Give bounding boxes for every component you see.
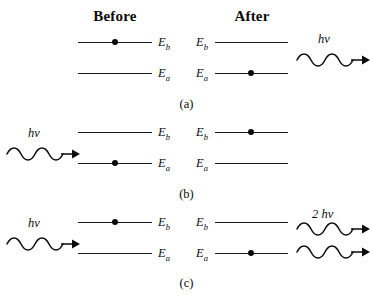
electron-dot xyxy=(248,129,254,135)
before-level-line-lower xyxy=(78,253,152,254)
level-symbol: E xyxy=(158,35,166,49)
photon-label-2h: 2 h xyxy=(312,207,328,221)
arrow-head-icon-second xyxy=(362,248,370,257)
arrow-head-icon xyxy=(362,56,370,65)
level-subscript: b xyxy=(166,42,170,52)
electron-dot xyxy=(112,160,118,166)
wave-path xyxy=(297,54,353,66)
column-header-before: Before xyxy=(78,8,152,25)
photon-incident xyxy=(6,140,80,166)
before-label-upper: Eb xyxy=(158,36,170,51)
photon-label-nu: ν xyxy=(34,126,40,140)
level-symbol: E xyxy=(196,156,204,170)
before-level-line-lower xyxy=(78,73,152,74)
level-symbol: E xyxy=(158,156,166,170)
level-symbol: E xyxy=(196,125,204,139)
arrow-head-icon xyxy=(72,150,80,159)
before-label-upper: Eb xyxy=(158,216,170,231)
photon-label-nu: ν xyxy=(328,207,334,221)
level-subscript: b xyxy=(204,42,208,52)
level-symbol: E xyxy=(196,66,204,80)
caption-c: (c) xyxy=(0,276,373,291)
after-level-line-lower xyxy=(215,163,288,164)
wave-path-second xyxy=(297,246,353,258)
level-symbol: E xyxy=(196,246,204,260)
wave-path xyxy=(7,238,63,250)
level-symbol: E xyxy=(196,215,204,229)
before-label-lower: Ea xyxy=(158,247,170,262)
electron-dot xyxy=(248,250,254,256)
row-a-spontaneous-emission: Eb Ea Eb Ea hν xyxy=(0,28,373,106)
before-label-lower: Ea xyxy=(158,157,170,172)
photon-emitted-label: hν xyxy=(318,33,330,46)
photon-emitted xyxy=(296,46,370,72)
photon-incident xyxy=(6,230,80,256)
after-label-lower: Ea xyxy=(196,247,208,262)
level-subscript: a xyxy=(204,253,208,263)
row-b-absorption: hν Eb Ea Eb Ea xyxy=(0,118,373,196)
caption-a: (a) xyxy=(0,97,373,112)
column-header-after: After xyxy=(215,8,289,25)
level-subscript: b xyxy=(204,222,208,232)
level-symbol: E xyxy=(158,246,166,260)
photon-label-nu: ν xyxy=(34,216,40,230)
level-subscript: a xyxy=(204,163,208,173)
level-subscript: b xyxy=(204,132,208,142)
level-symbol: E xyxy=(158,66,166,80)
before-label-upper: Eb xyxy=(158,126,170,141)
photon-incident-label: hν xyxy=(28,127,40,140)
level-subscript: a xyxy=(166,73,170,83)
caption-b: (b) xyxy=(0,187,373,202)
after-label-upper: Eb xyxy=(196,126,208,141)
photon-label-nu: ν xyxy=(324,32,330,46)
level-subscript: a xyxy=(166,163,170,173)
electron-dot xyxy=(112,39,118,45)
after-label-lower: Ea xyxy=(196,67,208,82)
after-label-lower: Ea xyxy=(196,157,208,172)
wave-path xyxy=(7,148,63,160)
energy-level-transitions-figure: Before After Eb Ea Eb Ea xyxy=(0,0,373,296)
level-subscript: a xyxy=(204,73,208,83)
after-level-line-upper xyxy=(215,222,288,223)
arrow-head-icon-first xyxy=(362,225,370,234)
after-level-line-upper xyxy=(215,42,288,43)
wave-path-first xyxy=(297,223,353,235)
electron-dot xyxy=(112,219,118,225)
level-symbol: E xyxy=(158,125,166,139)
photon-incident-label: hν xyxy=(28,217,40,230)
level-subscript: b xyxy=(166,222,170,232)
level-symbol: E xyxy=(158,215,166,229)
electron-dot xyxy=(248,70,254,76)
level-subscript: b xyxy=(166,132,170,142)
after-label-upper: Eb xyxy=(196,216,208,231)
before-level-line-upper xyxy=(78,132,152,133)
arrow-head-icon xyxy=(72,240,80,249)
level-subscript: a xyxy=(166,253,170,263)
photon-emitted-pair-label: 2 hν xyxy=(312,208,333,221)
photon-emitted-pair xyxy=(296,218,370,266)
level-symbol: E xyxy=(196,35,204,49)
after-label-upper: Eb xyxy=(196,36,208,51)
before-label-lower: Ea xyxy=(158,67,170,82)
